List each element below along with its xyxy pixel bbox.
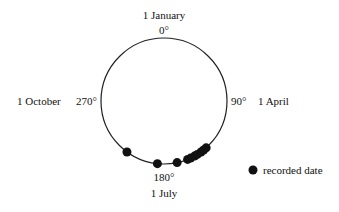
recorded-date-point xyxy=(153,159,162,168)
label-top-angle: 0° xyxy=(159,24,169,36)
label-left-date: 1 October xyxy=(17,95,61,107)
circular-diagram: 1 January 0° 90° 1 April 180° 1 July 270… xyxy=(0,0,339,212)
label-bottom-angle: 180° xyxy=(154,171,175,183)
legend-marker-icon xyxy=(249,166,258,175)
label-left-angle: 270° xyxy=(76,95,97,107)
recorded-date-point xyxy=(173,158,182,167)
label-right-angle: 90° xyxy=(231,95,246,107)
label-top-date: 1 January xyxy=(143,9,186,21)
recorded-date-point xyxy=(183,155,192,164)
recorded-date-point xyxy=(122,147,131,156)
label-right-date: 1 April xyxy=(258,95,289,107)
legend-label: recorded date xyxy=(263,164,323,176)
label-bottom-date: 1 July xyxy=(151,187,178,199)
